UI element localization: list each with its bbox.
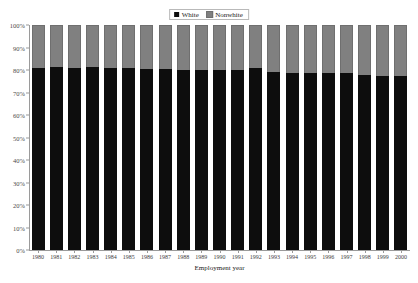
bar-segment-white[interactable] [195,70,208,250]
bar-group[interactable] [159,25,172,250]
y-axis-tick-label: 50% [13,134,25,141]
bar-group[interactable] [231,25,244,250]
bar-segment-white[interactable] [376,76,389,250]
legend-entry-nonwhite[interactable]: Nonwhite [206,11,243,19]
bar-group[interactable] [177,25,190,250]
bar-segment-white[interactable] [231,70,244,250]
bar-segment-nonwhite[interactable] [394,25,407,76]
x-axis-tick-label: 1983 [87,254,99,261]
bar-group[interactable] [249,25,262,250]
bar-group[interactable] [304,25,317,250]
bar-segment-nonwhite[interactable] [267,25,280,72]
x-axis-tick-mark [401,250,402,253]
legend-entry-white[interactable]: White [174,11,199,19]
x-axis-tick-label: 1988 [177,254,189,261]
bar-segment-white[interactable] [340,73,353,250]
y-axis-tick-label: 80% [13,67,25,74]
bar-stack [231,25,244,250]
bar-segment-white[interactable] [50,67,63,250]
y-axis-tick-mark [26,250,29,251]
bar-segment-white[interactable] [267,72,280,250]
bar-group[interactable] [68,25,81,250]
bar-segment-white[interactable] [394,76,407,250]
y-axis-tick-label: 0% [16,247,25,254]
bar-segment-white[interactable] [32,68,45,250]
bar-segment-nonwhite[interactable] [286,25,299,73]
x-axis-tick-label: 1994 [286,254,298,261]
y-axis-tick-mark [26,137,29,138]
bar-segment-nonwhite[interactable] [122,25,135,68]
bar-segment-nonwhite[interactable] [249,25,262,68]
bar-segment-white[interactable] [122,68,135,250]
x-axis-tick-mark [38,250,39,253]
bar-segment-nonwhite[interactable] [50,25,63,67]
bar-segment-nonwhite[interactable] [231,25,244,70]
bar-stack [394,25,407,250]
bar-segment-white[interactable] [286,73,299,250]
x-axis-tick-mark [129,250,130,253]
bar-group[interactable] [286,25,299,250]
bar-stack [249,25,262,250]
bar-segment-nonwhite[interactable] [32,25,45,68]
bar-stack [68,25,81,250]
y-axis-tick-mark [26,70,29,71]
bar-segment-white[interactable] [104,68,117,250]
x-axis-tick-mark [365,250,366,253]
bar-segment-nonwhite[interactable] [376,25,389,76]
bar-group[interactable] [394,25,407,250]
bar-group[interactable] [122,25,135,250]
bar-segment-white[interactable] [86,67,99,250]
bar-segment-white[interactable] [159,69,172,250]
bar-segment-nonwhite[interactable] [213,25,226,70]
bar-group[interactable] [104,25,117,250]
bar-group[interactable] [340,25,353,250]
bar-segment-nonwhite[interactable] [68,25,81,68]
bar-group[interactable] [32,25,45,250]
x-axis-tick-mark [220,250,221,253]
bar-stack [340,25,353,250]
bar-segment-nonwhite[interactable] [340,25,353,73]
bar-stack [140,25,153,250]
bar-group[interactable] [322,25,335,250]
x-axis-tick-label: 1992 [250,254,262,261]
bar-segment-white[interactable] [68,68,81,250]
bar-stack [195,25,208,250]
bar-segment-white[interactable] [249,68,262,250]
bar-stack [32,25,45,250]
bar-group[interactable] [195,25,208,250]
bar-segment-nonwhite[interactable] [322,25,335,73]
bar-stack [86,25,99,250]
x-axis-tick-label: 1997 [341,254,353,261]
x-axis-tick-label: 1998 [359,254,371,261]
bar-group[interactable] [86,25,99,250]
bar-group[interactable] [50,25,63,250]
bar-stack [304,25,317,250]
bar-segment-nonwhite[interactable] [140,25,153,69]
bar-segment-white[interactable] [358,75,371,251]
x-axis-tick-mark [274,250,275,253]
bar-segment-nonwhite[interactable] [104,25,117,68]
bar-segment-nonwhite[interactable] [86,25,99,67]
y-axis-tick-label: 20% [13,202,25,209]
bar-segment-white[interactable] [177,70,190,250]
bar-group[interactable] [140,25,153,250]
bar-segment-white[interactable] [304,73,317,250]
y-axis-tick-mark [26,115,29,116]
bar-group[interactable] [267,25,280,250]
bar-group[interactable] [358,25,371,250]
bar-group[interactable] [376,25,389,250]
bar-segment-white[interactable] [213,70,226,250]
y-axis-tick-mark [26,47,29,48]
bar-segment-nonwhite[interactable] [159,25,172,69]
bar-segment-white[interactable] [322,73,335,250]
y-axis-tick-label: 60% [13,112,25,119]
bar-segment-nonwhite[interactable] [195,25,208,70]
x-axis-tick-label: 1984 [105,254,117,261]
bar-stack [358,25,371,250]
bar-segment-nonwhite[interactable] [177,25,190,70]
bar-group[interactable] [213,25,226,250]
x-axis-tick-mark [147,250,148,253]
bar-segment-nonwhite[interactable] [304,25,317,73]
bar-segment-white[interactable] [140,69,153,250]
bar-segment-nonwhite[interactable] [358,25,371,75]
